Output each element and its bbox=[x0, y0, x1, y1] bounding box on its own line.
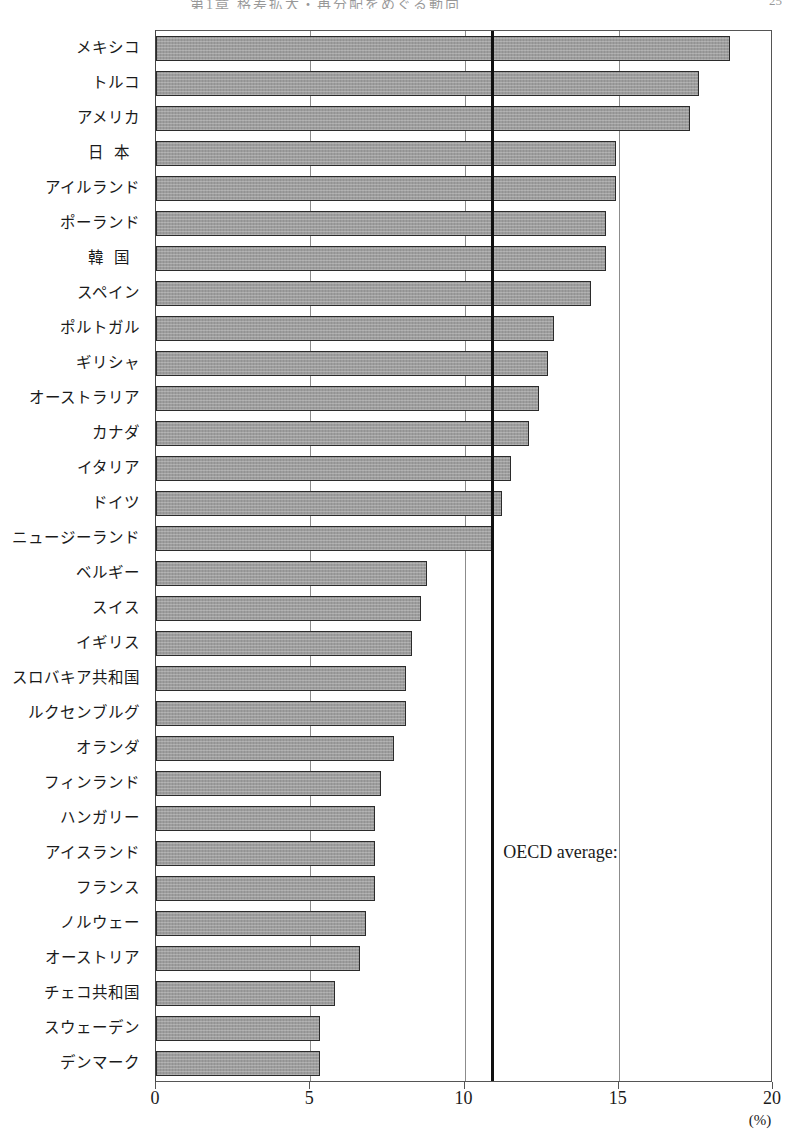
chart-row bbox=[156, 451, 773, 486]
category-label: オーストリア bbox=[45, 940, 140, 975]
chart-row bbox=[156, 836, 773, 871]
category-label: アイスランド bbox=[45, 835, 140, 870]
category-label: フランス bbox=[76, 870, 140, 905]
category-label: イギリス bbox=[76, 625, 140, 660]
axis-unit-label: (%) bbox=[749, 1112, 772, 1129]
bar bbox=[156, 911, 366, 936]
category-label: スウェーデン bbox=[44, 1010, 140, 1045]
bar bbox=[156, 316, 554, 341]
bar bbox=[156, 876, 375, 901]
category-label: ギリシャ bbox=[76, 345, 140, 380]
oecd-average-annotation: OECD average: bbox=[503, 842, 617, 863]
chart-row bbox=[156, 556, 773, 591]
chart-row bbox=[156, 171, 773, 206]
chart-row bbox=[156, 1011, 773, 1046]
bar bbox=[156, 946, 360, 971]
bar bbox=[156, 666, 406, 691]
chart-row bbox=[156, 276, 773, 311]
category-label: カナダ bbox=[92, 415, 140, 450]
bar bbox=[156, 1016, 320, 1041]
chart-row bbox=[156, 591, 773, 626]
category-label: デンマーク bbox=[60, 1045, 140, 1080]
axis-tick-label: 15 bbox=[609, 1088, 627, 1109]
category-label: ルクセンブルグ bbox=[28, 695, 140, 730]
category-label: ノルウェー bbox=[60, 905, 140, 940]
category-label: スロバキア共和国 bbox=[12, 660, 140, 695]
category-label: チェコ共和国 bbox=[44, 975, 140, 1010]
chart-row bbox=[156, 31, 773, 66]
category-label: スイス bbox=[92, 590, 140, 625]
bar bbox=[156, 491, 502, 516]
bar bbox=[156, 526, 492, 551]
axis-tick-label: 20 bbox=[763, 1088, 781, 1109]
bar bbox=[156, 106, 690, 131]
category-label: フィンランド bbox=[44, 765, 140, 800]
oecd-average-line bbox=[491, 31, 494, 1081]
bar-series bbox=[156, 31, 773, 1083]
chart-row bbox=[156, 976, 773, 1011]
category-label: オランダ bbox=[76, 730, 140, 765]
axis-tick-label: 0 bbox=[151, 1088, 160, 1109]
bar bbox=[156, 421, 529, 446]
category-label: ニュージーランド bbox=[12, 520, 140, 555]
bar bbox=[156, 701, 406, 726]
chart-row bbox=[156, 416, 773, 451]
chart-row bbox=[156, 696, 773, 731]
category-label: アメリカ bbox=[77, 100, 140, 135]
bar bbox=[156, 1051, 320, 1076]
bar bbox=[156, 561, 427, 586]
bar bbox=[156, 71, 699, 96]
category-axis-labels: メキシコトルコアメリカ日本アイルランドポーランド韓国スペインポルトガルギリシャオ… bbox=[0, 30, 148, 1082]
bar bbox=[156, 246, 606, 271]
chart-row bbox=[156, 136, 773, 171]
category-label: 日本 bbox=[78, 135, 140, 170]
chart-page: 第1章 格差拡大・再分配をめぐる動向 25 メキシコトルコアメリカ日本アイルラン… bbox=[0, 0, 798, 1137]
chart-row bbox=[156, 871, 773, 906]
category-label: スペイン bbox=[77, 275, 140, 310]
chart-row bbox=[156, 381, 773, 416]
category-label: トルコ bbox=[92, 65, 140, 100]
bar bbox=[156, 981, 335, 1006]
bar bbox=[156, 806, 375, 831]
bar bbox=[156, 211, 606, 236]
chart-row bbox=[156, 206, 773, 241]
category-label: アイルランド bbox=[45, 170, 140, 205]
bar bbox=[156, 736, 394, 761]
chart-row bbox=[156, 1046, 773, 1081]
chart-row bbox=[156, 661, 773, 696]
bar bbox=[156, 141, 616, 166]
bar bbox=[156, 386, 539, 411]
chart-row bbox=[156, 941, 773, 976]
bar bbox=[156, 281, 591, 306]
category-label: ポーランド bbox=[60, 205, 140, 240]
axis-tick-label: 10 bbox=[455, 1088, 473, 1109]
bar bbox=[156, 631, 412, 656]
bar bbox=[156, 841, 375, 866]
bar bbox=[156, 771, 381, 796]
axis-tick-label: 5 bbox=[305, 1088, 314, 1109]
chart-row bbox=[156, 311, 773, 346]
bar bbox=[156, 176, 616, 201]
bar-chart: メキシコトルコアメリカ日本アイルランドポーランド韓国スペインポルトガルギリシャオ… bbox=[0, 0, 798, 1137]
chart-row bbox=[156, 101, 773, 136]
chart-row bbox=[156, 626, 773, 661]
chart-row bbox=[156, 486, 773, 521]
category-label: 韓国 bbox=[78, 240, 140, 275]
chart-row bbox=[156, 906, 773, 941]
category-label: ハンガリー bbox=[60, 800, 140, 835]
category-label: ポルトガル bbox=[60, 310, 140, 345]
plot-area bbox=[155, 30, 772, 1082]
bar bbox=[156, 596, 421, 621]
category-label: オーストラリア bbox=[29, 380, 140, 415]
chart-row bbox=[156, 731, 773, 766]
bar bbox=[156, 456, 511, 481]
category-label: ドイツ bbox=[92, 485, 140, 520]
chart-row bbox=[156, 241, 773, 276]
category-label: ベルギー bbox=[76, 555, 140, 590]
chart-row bbox=[156, 801, 773, 836]
category-label: メキシコ bbox=[76, 30, 140, 65]
bar bbox=[156, 36, 730, 61]
chart-row bbox=[156, 66, 773, 101]
category-label: イタリア bbox=[77, 450, 140, 485]
chart-row bbox=[156, 521, 773, 556]
